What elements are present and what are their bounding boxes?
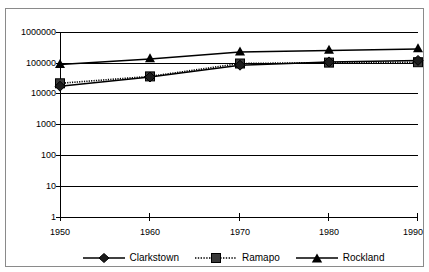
triangle-marker-icon xyxy=(145,53,155,62)
legend-label-ramapo: Ramapo xyxy=(242,253,280,263)
triangle-marker-icon xyxy=(235,46,245,55)
legend-label-clarkstown: Clarkstown xyxy=(130,253,179,263)
square-marker-icon xyxy=(211,254,220,263)
legend-item-clarkstown: Clarkstown xyxy=(81,252,179,264)
triangle-marker-icon xyxy=(413,43,423,52)
legend-item-ramapo: Ramapo xyxy=(193,252,280,264)
gridlines xyxy=(60,33,418,187)
y-tick-label-1000: 1000 xyxy=(12,120,56,129)
legend-swatch-rockland xyxy=(294,252,340,264)
y-tick-label-1: 1 xyxy=(12,213,56,222)
x-tick-label-1950: 1950 xyxy=(40,228,80,237)
x-tick-label-1960: 1960 xyxy=(130,228,170,237)
y-tick-label-100: 100 xyxy=(12,151,56,160)
x-tick-label-1980: 1980 xyxy=(309,228,349,237)
diamond-marker-icon xyxy=(99,254,109,263)
legend-label-rockland: Rockland xyxy=(343,253,385,263)
triangle-marker-icon xyxy=(324,45,334,54)
y-tick-label-100000: 100000 xyxy=(12,59,56,68)
legend-item-rockland: Rockland xyxy=(294,252,385,264)
y-tick-label-10000: 10000 xyxy=(12,89,56,98)
chart-legend: Clarkstown Ramapo Rockland xyxy=(60,249,405,267)
chart-figure: 1000000 100000 10000 1000 100 10 1 1950 … xyxy=(0,0,429,272)
legend-swatch-ramapo xyxy=(193,252,239,264)
y-tick-label-10: 10 xyxy=(12,182,56,191)
y-tick-label-1000000: 1000000 xyxy=(12,28,56,37)
x-tick-label-1970: 1970 xyxy=(220,228,260,237)
legend-swatch-clarkstown xyxy=(81,252,127,264)
x-tick-label-1990: 1990 xyxy=(393,228,429,237)
